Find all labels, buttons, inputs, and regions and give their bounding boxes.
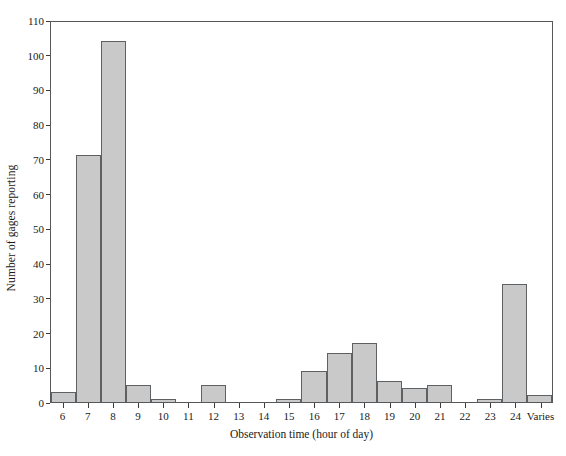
x-axis-tick-label: 6	[60, 410, 66, 422]
x-axis-tick-mark	[188, 403, 189, 408]
bar	[51, 392, 76, 402]
x-axis-tick-label: 15	[283, 410, 294, 422]
bar	[201, 385, 226, 402]
bar-slot	[377, 22, 402, 402]
bar	[377, 381, 402, 402]
bar-slot	[427, 22, 452, 402]
x-axis-tick-label: 20	[409, 410, 420, 422]
x-axis-tick-label: 9	[135, 410, 141, 422]
x-axis-tick-mark	[88, 403, 89, 408]
x-axis-tick-mark	[415, 403, 416, 408]
x-axis-tick-mark	[490, 403, 491, 408]
bar-series	[51, 22, 552, 402]
x-axis-tick-label: 24	[510, 410, 521, 422]
bar	[352, 343, 377, 402]
bar-slot	[327, 22, 352, 402]
bar	[402, 388, 427, 402]
bar-slot	[502, 22, 527, 402]
x-axis-tick-mark	[440, 403, 441, 408]
bar	[477, 399, 502, 402]
bar-slot	[126, 22, 151, 402]
bar-slot	[251, 22, 276, 402]
bar	[527, 395, 552, 402]
x-axis-tick-label: 10	[158, 410, 169, 422]
bar	[301, 371, 326, 402]
bar-slot	[352, 22, 377, 402]
bar-slot	[201, 22, 226, 402]
x-axis-tick-mark	[113, 403, 114, 408]
x-axis-tick-mark	[264, 403, 265, 408]
plot-area	[50, 21, 553, 403]
bar-slot	[452, 22, 477, 402]
bar-slot	[151, 22, 176, 402]
bar-slot	[226, 22, 251, 402]
x-axis-tick-mark	[541, 403, 542, 408]
x-axis-tick-mark	[163, 403, 164, 408]
histogram-figure: Number of gages reporting 01020304050607…	[0, 0, 566, 456]
bar-slot	[477, 22, 502, 402]
x-axis-tick-mark	[63, 403, 64, 408]
x-axis-tick-label: Varies	[527, 410, 555, 422]
bar	[502, 284, 527, 402]
x-axis-tick-label: 12	[208, 410, 219, 422]
x-axis-tick-mark	[138, 403, 139, 408]
x-axis-tick-label: 16	[309, 410, 320, 422]
bar-slot	[402, 22, 427, 402]
x-axis-tick-label: 14	[258, 410, 269, 422]
x-axis-tick-label: 22	[460, 410, 471, 422]
x-axis-tick-label: 18	[359, 410, 370, 422]
x-axis-tick-label: 19	[384, 410, 395, 422]
x-axis-tick-label: 23	[485, 410, 496, 422]
bar-slot	[276, 22, 301, 402]
x-axis-tick-mark	[339, 403, 340, 408]
bar-slot	[76, 22, 101, 402]
bar	[151, 399, 176, 402]
x-axis-tick-mark	[364, 403, 365, 408]
x-axis-tick-mark	[465, 403, 466, 408]
bar-slot	[527, 22, 552, 402]
x-axis-tick-label: 13	[233, 410, 244, 422]
x-axis-tick-label: 7	[85, 410, 91, 422]
bar	[427, 385, 452, 402]
x-axis-tick-mark	[239, 403, 240, 408]
bar	[76, 155, 101, 402]
bar-slot	[301, 22, 326, 402]
bar-slot	[101, 22, 126, 402]
bar-slot	[51, 22, 76, 402]
x-axis-tick-mark	[314, 403, 315, 408]
x-axis-tick-label: 11	[183, 410, 194, 422]
x-axis-title: Observation time (hour of day)	[50, 428, 553, 440]
bar	[327, 353, 352, 402]
x-axis-tick-label: 21	[434, 410, 445, 422]
x-axis-tick-mark	[214, 403, 215, 408]
bar-slot	[176, 22, 201, 402]
bar	[276, 399, 301, 402]
x-axis-tick-mark	[515, 403, 516, 408]
x-axis-tick-mark	[390, 403, 391, 408]
y-axis-title: Number of gages reporting	[0, 0, 22, 456]
bar	[126, 385, 151, 402]
x-axis-tick-mark	[289, 403, 290, 408]
x-axis-tick-label: 17	[334, 410, 345, 422]
x-axis-tick-label: 8	[110, 410, 116, 422]
bar	[101, 41, 126, 402]
